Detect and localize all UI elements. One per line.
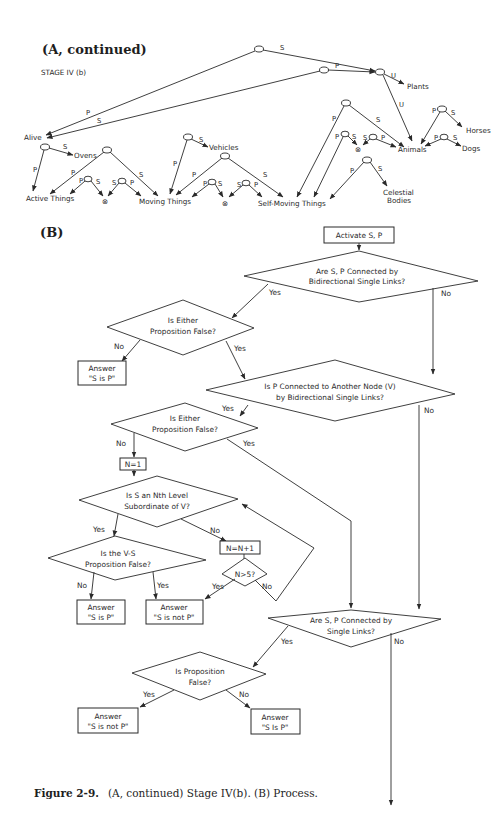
edge-top1-node — [263, 50, 375, 71]
answer-text: "S is not P" — [153, 613, 194, 622]
decision-text: Are S, P Connected by — [310, 616, 393, 625]
branch-label: Yes — [92, 525, 105, 534]
decision-text: False? — [189, 678, 212, 687]
decision-text: by Bidirectional Single Links? — [276, 393, 384, 402]
answer-text: "S is P" — [89, 374, 116, 383]
edge-label: S — [199, 136, 203, 144]
node-top-1 — [255, 46, 264, 52]
node-plants: Plants — [407, 82, 429, 91]
answer-text: Answer — [87, 603, 115, 612]
branch-label: No — [116, 439, 127, 448]
increment-n-label: N=N+1 — [226, 544, 254, 553]
edge-label: P — [254, 181, 258, 189]
part-a-title: (A, continued) — [42, 42, 147, 57]
edge — [349, 105, 404, 147]
edge-label: S — [451, 109, 455, 117]
node-self-moving-things: Self-Moving Things — [258, 199, 326, 208]
branch-label: No — [262, 582, 273, 591]
answer-text: Answer — [88, 364, 116, 373]
null-node: ⊗ — [355, 145, 361, 154]
edge-label: S — [112, 179, 116, 187]
part-a-semantic-network: (A, continued) STAGE IV (b) S P P S U Pl… — [24, 42, 491, 208]
decision-text: Proposition False? — [152, 425, 218, 434]
decision-text: Is S an Nth Level — [126, 491, 188, 500]
answer-text: Answer — [261, 713, 289, 722]
branch-label: Yes — [221, 404, 234, 413]
node-alive: Alive — [24, 133, 42, 142]
branch-label: Yes — [242, 439, 255, 448]
edge — [425, 139, 441, 146]
edge-label: S — [97, 117, 101, 125]
edge-label: P — [434, 134, 438, 142]
null-node: ⊗ — [222, 199, 228, 208]
edge-label: P — [71, 169, 75, 177]
branch-label: No — [394, 637, 405, 646]
stage-label: STAGE IV (b) — [41, 68, 86, 77]
edge — [253, 626, 288, 667]
node-moving-things: Moving Things — [139, 197, 191, 206]
edge-label: S — [139, 171, 143, 179]
node-dogs: Dogs — [462, 144, 480, 153]
init-n-label: N=1 — [125, 460, 142, 469]
node — [369, 134, 377, 140]
branch-label: No — [424, 406, 435, 415]
figure-caption: Figure 2-9. (A, continued) Stage IV(b). … — [34, 782, 318, 801]
edge — [314, 137, 343, 197]
answer-text: Answer — [94, 712, 122, 721]
branch-label: Yes — [280, 637, 293, 646]
decision-text: Subordinate of V? — [124, 502, 190, 511]
node-active-things: Active Things — [26, 194, 75, 203]
edge — [110, 152, 158, 196]
edge — [114, 514, 118, 536]
edge — [240, 405, 248, 416]
decision-text: Proposition False? — [85, 560, 151, 569]
edge — [91, 572, 94, 599]
branch-label: No — [210, 526, 221, 535]
part-b-flowchart: (B) Activate S, P Are S, P Connected by … — [40, 225, 478, 805]
node-ovens: Ovens — [74, 151, 97, 160]
edge-label: P — [79, 177, 83, 185]
edge — [176, 158, 222, 195]
node — [242, 180, 250, 186]
answer-text: "S Is P" — [262, 723, 289, 732]
decision-text: Is Proposition — [175, 667, 225, 676]
decision-text: N>5? — [235, 570, 255, 579]
caption-body: (A, continued) Stage IV(b). (B) Process. — [108, 787, 318, 799]
node — [208, 179, 216, 185]
part-b-title: (B) — [40, 225, 63, 240]
answer-text: Answer — [160, 603, 188, 612]
edge-label: S — [218, 180, 222, 188]
branch-label: Yes — [156, 581, 169, 590]
edge-label: S — [237, 181, 241, 189]
answer-text: "S is P" — [88, 613, 115, 622]
edge — [232, 284, 268, 318]
node — [118, 178, 126, 184]
edge-label: P — [335, 133, 339, 141]
decision-text: Single Links? — [327, 627, 375, 636]
edge-top2-node — [328, 70, 375, 72]
branch-label: Yes — [268, 288, 281, 297]
branch-label: Yes — [142, 690, 155, 699]
branch-label: Yes — [211, 582, 224, 591]
edge-label: U — [391, 72, 396, 80]
branch-label: No — [239, 690, 250, 699]
node-celestial-bodies-2: Bodies — [387, 196, 411, 205]
edge-label: S — [453, 134, 457, 142]
decision-text: Are S, P Connected by — [316, 267, 399, 276]
edge-label: P — [130, 179, 134, 187]
edge-label: S — [63, 143, 67, 151]
branch-label: No — [441, 289, 452, 298]
edge-label: P — [381, 134, 385, 142]
edge-label: U — [399, 101, 404, 109]
decision-text: Is Either — [168, 316, 199, 325]
edge-label: P — [350, 167, 354, 175]
answer-text: "S is not P" — [87, 722, 128, 731]
node — [341, 131, 349, 137]
decision-text: Is the V-S — [101, 549, 136, 558]
edge — [376, 139, 396, 147]
caption-text: Figure 2-9. (A, continued) Stage IV(b). … — [34, 782, 318, 801]
edge — [153, 572, 156, 599]
branch-label: Yes — [233, 344, 246, 353]
edge-label: S — [263, 171, 267, 179]
edge-label: P — [332, 115, 336, 123]
